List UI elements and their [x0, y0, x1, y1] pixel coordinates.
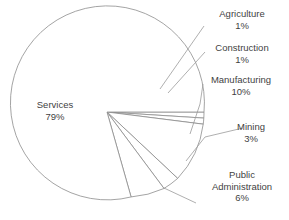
slice-label-mining: Mining 3% [218, 121, 284, 144]
slice-label-agriculture-name: Agriculture [196, 8, 288, 20]
slice-label-public-administration-pct: 6% [196, 192, 288, 204]
slice-label-services-name: Services [22, 99, 88, 111]
slice-label-mining-pct: 3% [218, 133, 284, 145]
slice-label-manufacturing-pct: 10% [194, 86, 288, 98]
slice-label-agriculture: Agriculture 1% [196, 8, 288, 31]
slice-label-manufacturing: Manufacturing 10% [194, 74, 288, 97]
slice-label-public-administration: Public Administration 6% [196, 169, 288, 204]
slice-label-services-pct: 79% [22, 111, 88, 123]
slice-label-services: Services 79% [22, 99, 88, 122]
slice-label-construction-pct: 1% [196, 54, 288, 66]
slice-label-manufacturing-name: Manufacturing [194, 74, 288, 86]
slice-label-mining-name: Mining [218, 121, 284, 133]
leader-line-public-administration [164, 188, 196, 203]
slice-label-public-administration-name-line2: Administration [196, 181, 288, 193]
pie-chart: Services 79% Agriculture 1% Construction… [0, 0, 289, 220]
slice-label-agriculture-pct: 1% [196, 20, 288, 32]
slice-label-public-administration-name-line1: Public [196, 169, 288, 181]
slice-label-construction: Construction 1% [196, 42, 288, 65]
slice-label-construction-name: Construction [196, 42, 288, 54]
